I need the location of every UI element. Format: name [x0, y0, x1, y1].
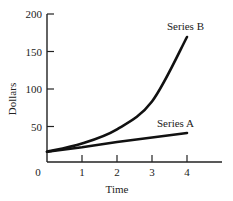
x-axis-label: Time [106, 183, 129, 195]
y-tick-200: 200 [26, 8, 43, 20]
line-chart: 200 150 100 50 0 1 2 3 4 Time Dollars Se… [0, 0, 233, 201]
y-axis-label: Dollars [6, 83, 18, 115]
x-tick-2: 2 [114, 166, 120, 178]
series-a-line [47, 133, 187, 152]
x-tick-1: 1 [79, 166, 85, 178]
y-ticks [47, 14, 54, 127]
x-tick-labels: 0 1 2 3 4 [35, 166, 190, 178]
y-tick-labels: 200 150 100 50 [26, 8, 43, 133]
y-tick-150: 150 [26, 46, 43, 58]
x-tick-0: 0 [35, 166, 41, 178]
y-tick-100: 100 [26, 83, 43, 95]
x-ticks [82, 155, 187, 162]
y-tick-50: 50 [31, 121, 43, 133]
x-tick-3: 3 [149, 166, 155, 178]
series-b-label: Series B [167, 20, 204, 32]
x-tick-4: 4 [184, 166, 190, 178]
series-a-label: Series A [157, 117, 194, 129]
